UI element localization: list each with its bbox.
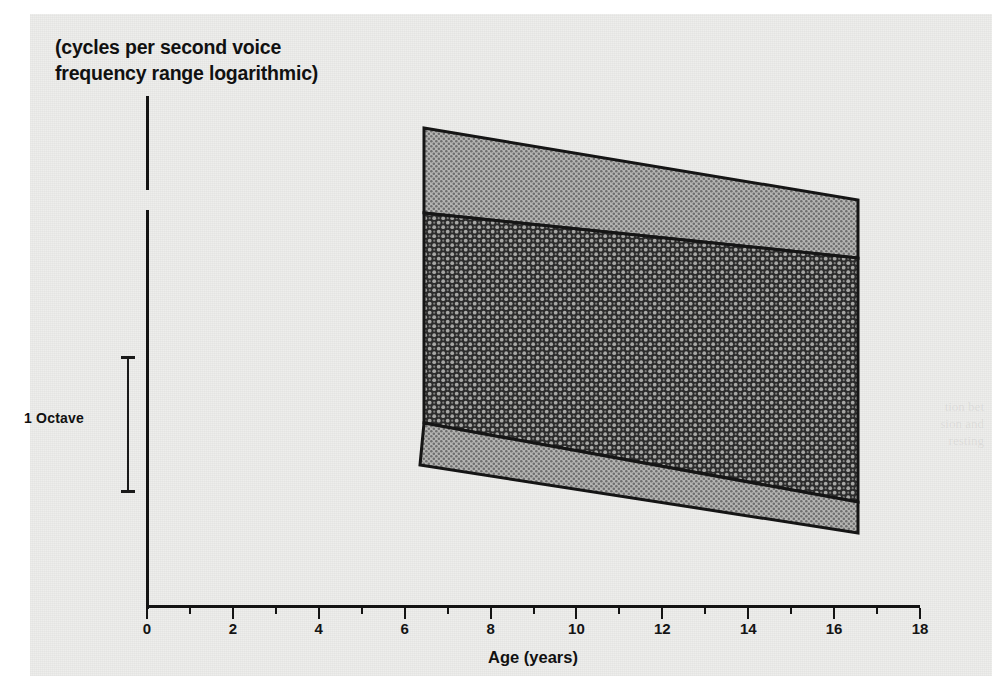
x-tick-major bbox=[575, 608, 577, 619]
x-tick-label: 16 bbox=[814, 620, 854, 637]
x-tick-minor bbox=[876, 608, 878, 614]
x-tick-major bbox=[404, 608, 406, 619]
octave-scale-label: 1 Octave bbox=[24, 410, 119, 426]
x-tick-minor bbox=[618, 608, 620, 614]
x-tick-minor bbox=[275, 608, 277, 614]
x-tick-label: 4 bbox=[299, 620, 339, 637]
x-tick-major bbox=[747, 608, 749, 619]
x-tick-major bbox=[146, 608, 148, 619]
x-tick-minor bbox=[361, 608, 363, 614]
x-tick-label: 12 bbox=[642, 620, 682, 637]
x-tick-major bbox=[232, 608, 234, 619]
y-axis-title-line-1: (cycles per second voice bbox=[55, 34, 355, 60]
x-tick-major bbox=[318, 608, 320, 619]
x-tick-minor bbox=[189, 608, 191, 614]
x-tick-minor bbox=[447, 608, 449, 614]
x-tick-label: 6 bbox=[385, 620, 425, 637]
octave-bar-cap-bottom bbox=[121, 490, 135, 493]
y-axis-line-upper bbox=[146, 96, 149, 190]
x-tick-minor bbox=[704, 608, 706, 614]
x-tick-label: 8 bbox=[471, 620, 511, 637]
octave-scale-bar bbox=[127, 357, 129, 493]
figure-root: tion bet sion and resting of vocal (cycl… bbox=[0, 0, 992, 692]
x-tick-major bbox=[490, 608, 492, 619]
x-tick-label: 0 bbox=[127, 620, 167, 637]
y-axis-title-line-2: frequency range logarithmic) bbox=[55, 60, 355, 86]
x-tick-label: 14 bbox=[728, 620, 768, 637]
x-tick-label: 18 bbox=[900, 620, 940, 637]
x-tick-major bbox=[661, 608, 663, 619]
x-tick-label: 2 bbox=[213, 620, 253, 637]
x-tick-label: 10 bbox=[556, 620, 596, 637]
x-tick-minor bbox=[533, 608, 535, 614]
x-tick-minor bbox=[790, 608, 792, 614]
x-tick-major bbox=[833, 608, 835, 619]
x-axis-title: Age (years) bbox=[146, 648, 920, 667]
scanned-page-surface bbox=[30, 14, 992, 676]
x-tick-major bbox=[919, 608, 921, 619]
y-axis-title: (cycles per second voice frequency range… bbox=[55, 34, 355, 86]
y-axis-line-lower bbox=[146, 210, 149, 609]
